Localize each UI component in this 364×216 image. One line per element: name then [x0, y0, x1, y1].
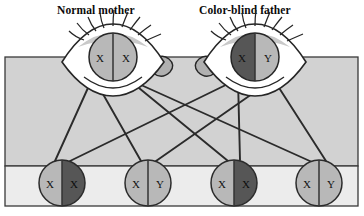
child-3[interactable]: XX [211, 160, 257, 206]
allele-symbol: Y [264, 52, 272, 64]
allele-symbol: X [238, 52, 246, 64]
child-1[interactable]: XX [39, 160, 85, 206]
allele-symbol: X [303, 178, 311, 190]
allele-symbol: X [242, 178, 250, 190]
allele-symbol: Y [327, 178, 335, 190]
panel-upper [5, 57, 358, 166]
allele-symbol: X [46, 178, 54, 190]
diagram-canvas: X X X Y XXXYXXXY [0, 0, 364, 216]
allele-symbol: X [218, 178, 226, 190]
allele-symbol: X [96, 52, 104, 64]
inheritance-diagram: Normal mother Color-blind father [0, 0, 364, 216]
allele-symbol: X [132, 178, 140, 190]
child-4[interactable]: XY [296, 160, 342, 206]
allele-symbol: Y [156, 178, 164, 190]
allele-symbol: X [70, 178, 78, 190]
child-2[interactable]: XY [125, 160, 171, 206]
allele-symbol: X [122, 52, 130, 64]
